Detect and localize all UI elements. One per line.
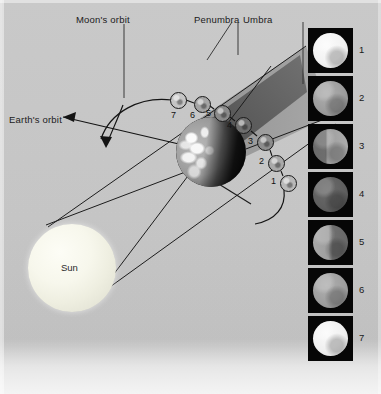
moon-orbit-direction-arrow bbox=[100, 99, 172, 148]
phase-panel-4 bbox=[308, 172, 353, 217]
phase-number-7: 7 bbox=[359, 332, 364, 343]
moon-marker bbox=[170, 92, 187, 109]
phase-panel-3 bbox=[308, 124, 353, 169]
phase-disc-4 bbox=[313, 177, 348, 212]
moon-entry-arrow bbox=[255, 190, 284, 224]
moon-number-6: 6 bbox=[190, 110, 195, 120]
phase-panel-7 bbox=[308, 316, 353, 361]
phase-panel-5 bbox=[308, 220, 353, 265]
moon-marker bbox=[257, 134, 274, 151]
lunar-eclipse-figure: Sun 1 2 3 4 5 6 7 Moon's orbit Penumbra … bbox=[0, 0, 381, 394]
phase-number-2: 2 bbox=[359, 92, 364, 103]
phase-number-1: 1 bbox=[359, 44, 364, 55]
phase-panel-1 bbox=[308, 28, 353, 73]
penumbra-label: Penumbra bbox=[194, 14, 239, 25]
phase-disc-2 bbox=[313, 81, 348, 116]
moon-marker bbox=[280, 175, 297, 192]
phase-number-5: 5 bbox=[359, 236, 364, 247]
phase-disc-1 bbox=[313, 33, 348, 68]
moon-marker bbox=[235, 117, 252, 134]
penumbra-leader bbox=[207, 22, 232, 60]
moon-number-1: 1 bbox=[271, 176, 276, 186]
phase-number-3: 3 bbox=[359, 140, 364, 151]
moon-number-2: 2 bbox=[259, 156, 264, 166]
moon-number-5: 5 bbox=[206, 108, 211, 118]
moon-number-3: 3 bbox=[248, 136, 253, 146]
phase-disc-5 bbox=[313, 225, 348, 260]
moons-orbit-label: Moon's orbit bbox=[76, 14, 130, 25]
moon-marker bbox=[268, 155, 285, 172]
phase-number-4: 4 bbox=[359, 188, 364, 199]
phase-panel-2 bbox=[308, 76, 353, 121]
umbra-label: Umbra bbox=[243, 14, 273, 25]
sun-label: Sun bbox=[61, 262, 78, 273]
phase-number-6: 6 bbox=[359, 284, 364, 295]
phase-disc-3 bbox=[313, 129, 348, 164]
earths-orbit-label: Earth's orbit bbox=[9, 114, 62, 125]
phase-disc-6 bbox=[313, 273, 348, 308]
phase-disc-7 bbox=[313, 321, 348, 356]
phase-panel-6 bbox=[308, 268, 353, 313]
moon-number-7: 7 bbox=[171, 110, 176, 120]
moon-number-4: 4 bbox=[227, 120, 232, 130]
